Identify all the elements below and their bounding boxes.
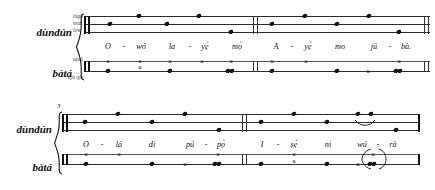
lyric-syllable: bà. [401,43,411,51]
lyric-syllable: rà [389,141,396,149]
lyric-hyphen: - [377,141,380,149]
lyric-hyphen: - [389,43,392,51]
staff-system-1: dùndún high mid low bàtá ṣáṣá ọjú ọ̀jọ̀ [0,0,435,95]
measure-number: 3 [57,103,61,110]
lyric-hyphen: - [205,141,208,149]
instrument-label-bata-2: bàtá [0,157,52,175]
notehead-x [304,59,309,64]
instrument-label-dundun-2: dùndún [0,119,52,137]
lyric-hyphen: - [101,141,104,149]
lyric-syllable: mọ̀ [232,43,242,51]
lyric-syllable: ni [325,141,331,149]
lyric-hyphen: - [123,43,126,51]
lyric-syllable: wú [357,141,367,149]
notehead-x [356,162,361,167]
barline-measure [246,114,247,132]
barline-measure [242,154,243,165]
lyric-syllable: ṣẹ́ [291,141,298,149]
lyric-hyphen: - [277,141,280,149]
barline-measure [253,61,254,72]
barline-end [428,61,429,72]
barline-start [84,61,86,72]
lyric-syllable: O [83,141,89,149]
staff-line-mid [62,122,420,123]
barline-end [424,61,425,72]
staff-system-2: 3 dùndún bàtá [0,95,435,190]
lyric-syllable: di [149,141,155,149]
staff-line-ojuojo [62,164,420,165]
notehead-x [183,162,188,167]
lyric-syllable: la [169,43,175,51]
notehead [167,68,173,73]
notehead [83,161,89,166]
lyric-syllable: yẹ̀ [304,43,311,51]
instrument-name: dùndún [37,26,72,38]
notehead-x [270,59,275,64]
barline-start [62,114,64,132]
barline-measure [253,16,254,34]
notehead [149,161,155,166]
lyric-syllable: lá [116,141,122,149]
notehead-x [366,69,371,74]
notehead-x [292,159,297,164]
notehead-x [106,59,111,64]
lyric-syllable: pú [186,141,194,149]
barline-start [66,114,68,132]
lyric-syllable: jú [371,43,377,51]
notehead [105,68,111,73]
lyric-syllable: O [105,43,111,51]
barline-measure [246,154,247,165]
lyric-syllable: pọ̀ [217,141,225,149]
barline-measure [257,16,258,34]
instrument-name: bàtá [32,161,52,173]
notehead [324,161,330,166]
instrument-label-bata-1: bàtá [0,63,72,81]
notehead [269,68,275,73]
notehead-x [292,152,297,157]
barline-end [424,16,425,34]
lyric-syllable: A [273,43,278,51]
barline-measure [257,61,258,72]
notehead [334,68,340,73]
lyric-syllable: wó [136,43,146,51]
notehead-x [117,152,122,157]
barline-final [418,154,420,165]
barline-start [62,154,64,165]
lyric-hyphen: - [189,43,192,51]
barline-start [84,16,86,34]
barline-final [418,114,420,132]
notehead-x [397,59,402,64]
staff-line-low [62,130,420,131]
barline-start [88,61,90,72]
notehead-x [216,152,221,157]
lyric-syllable: yẹ̀ [201,43,208,51]
barline-end [428,16,429,34]
notehead-x [371,152,376,157]
notehead-x [138,65,143,70]
barline-start [66,154,68,165]
barline-measure [242,114,243,132]
music-score: dùndún high mid low bàtá ṣáṣá ọjú ọ̀jọ̀ [0,0,435,190]
notehead-x [168,59,173,64]
barline-start [88,16,90,34]
staff-dundun-2 [62,114,420,132]
instrument-name: dùndún [17,123,52,135]
notehead-x [84,152,89,157]
lyric-syllable: I [261,141,264,149]
lyric-hyphen: - [291,43,294,51]
instrument-label-dundun-1: dùndún [0,22,72,40]
lyric-syllable: mo [335,43,345,51]
notehead-x [200,59,205,64]
notehead-x [229,59,234,64]
notehead [258,161,264,166]
